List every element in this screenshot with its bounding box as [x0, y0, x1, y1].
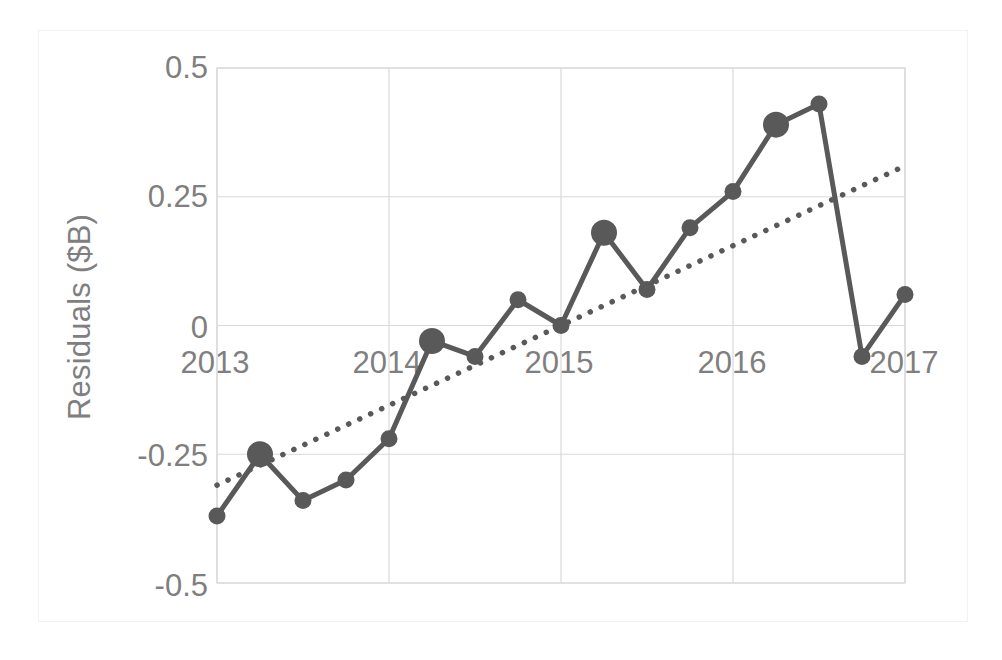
data-point-marker	[247, 441, 273, 467]
chart-figure: Residuals ($B) 0.5 0.25 0 -0.25 -0.5 201…	[0, 0, 1002, 660]
plot-area	[0, 0, 1002, 660]
data-point-marker	[591, 220, 617, 246]
data-point-marker	[209, 508, 226, 525]
data-point-marker	[682, 219, 699, 236]
data-point-marker	[897, 286, 914, 303]
data-point-marker	[338, 472, 355, 489]
data-point-marker	[467, 348, 484, 365]
data-point-marker	[419, 328, 445, 354]
data-point-marker	[811, 96, 828, 113]
data-point-marker	[510, 291, 527, 308]
data-point-marker	[854, 348, 871, 365]
data-point-marker	[381, 430, 398, 447]
data-point-marker	[725, 183, 742, 200]
data-point-marker	[763, 112, 789, 138]
data-point-marker	[553, 317, 570, 334]
data-point-marker	[295, 492, 312, 509]
data-point-marker	[639, 281, 656, 298]
